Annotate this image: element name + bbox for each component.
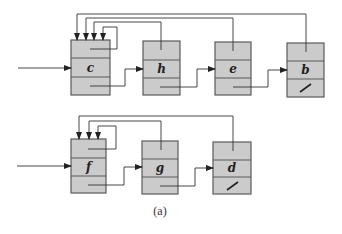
- node-key-c: c: [87, 61, 95, 75]
- node-key-d: d: [228, 161, 237, 175]
- node-key-b: b: [301, 63, 309, 77]
- bottom-list: f g d: [17, 116, 251, 194]
- top-list: c h e b: [18, 14, 324, 97]
- figure-caption: (a): [153, 204, 166, 218]
- rep-arrow-b-c: [77, 14, 306, 52]
- node-b: b: [287, 43, 324, 97]
- node-c: c: [71, 40, 110, 95]
- node-key-g: g: [156, 161, 164, 175]
- linked-list-diagram: c h e b: [0, 0, 342, 234]
- node-d: d: [213, 142, 251, 194]
- node-key-e: e: [229, 62, 237, 76]
- node-key-h: h: [157, 62, 166, 76]
